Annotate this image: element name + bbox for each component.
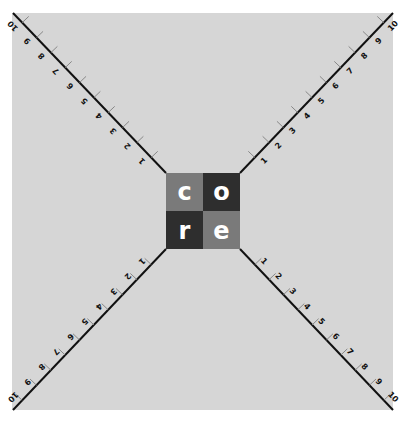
logo-letter-r: r [179,217,191,245]
core-logo: c o r e [166,173,240,249]
logo-letter-c: c [177,178,191,206]
logo-letter-e: e [213,217,229,245]
core-diagram: 1234567891012345678910123456789101234567… [0,0,404,424]
logo-letter-o: o [213,178,230,206]
